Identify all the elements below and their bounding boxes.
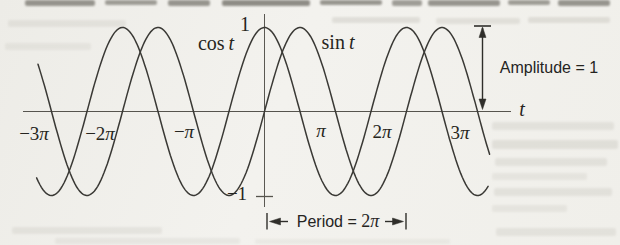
cos-variable: t xyxy=(229,32,235,54)
sin-function-name: sin xyxy=(322,31,345,53)
tick-pi-symbol: π xyxy=(105,123,115,144)
tick-pi-symbol: π xyxy=(39,123,49,144)
x-tick-label-neg3pi: −3π xyxy=(19,124,49,143)
period-pi-symbol: π xyxy=(370,211,379,231)
tick-pi-symbol: π xyxy=(382,121,392,142)
cos-curve-label: cost xyxy=(198,33,234,53)
tick-pi-symbol: π xyxy=(460,122,470,143)
y-tick-label-neg1: −1 xyxy=(227,184,247,203)
sin-curve-label: sint xyxy=(322,32,355,52)
y-tick-neg1-text: −1 xyxy=(227,183,247,204)
tick-pi-symbol: π xyxy=(316,120,326,141)
amplitude-annotation: Amplitude = 1 xyxy=(500,60,598,76)
period-prefix: Period = xyxy=(297,213,361,230)
tick-number: 3 xyxy=(450,122,460,143)
y-tick-1-text: 1 xyxy=(240,13,250,35)
x-axis-variable: t xyxy=(519,98,525,120)
period-annotation: Period = 2π xyxy=(297,212,380,230)
tick-number: − xyxy=(174,121,185,142)
tick-pi-symbol: π xyxy=(185,121,195,142)
sin-variable: t xyxy=(349,31,355,53)
x-tick-label-2pi: 2π xyxy=(372,122,391,141)
x-tick-label-pi: π xyxy=(316,121,326,140)
amplitude-arrow xyxy=(474,26,491,110)
cos-function-name: cos xyxy=(198,32,225,54)
x-tick-label-negpi: −π xyxy=(174,122,194,141)
tick-number: −2 xyxy=(85,123,105,144)
tick-number: 2 xyxy=(372,121,382,142)
x-tick-label-neg2pi: −2π xyxy=(85,124,115,143)
textbook-trig-figure: 1 −1 cost sint t Amplitude = 1 Period = … xyxy=(0,0,620,245)
x-tick-label-3pi: 3π xyxy=(450,123,469,142)
tick-number: −3 xyxy=(19,123,39,144)
x-axis-label: t xyxy=(519,99,525,119)
amplitude-text: Amplitude = 1 xyxy=(500,59,598,76)
y-tick-label-1: 1 xyxy=(240,14,250,34)
